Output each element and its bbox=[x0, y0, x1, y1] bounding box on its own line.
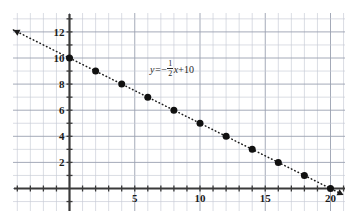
equation-constant: 10 bbox=[184, 65, 194, 75]
x-axis-tick-label: 15 bbox=[260, 193, 271, 204]
graph-figure: 24681012 5101520 y= − 1 2 x + 10 bbox=[0, 0, 351, 220]
x-axis-tick-label: 20 bbox=[325, 193, 336, 204]
equation-numerator: 1 bbox=[167, 59, 173, 68]
y-axis-tick-label: 4 bbox=[59, 131, 65, 142]
y-axis-tick-label: 10 bbox=[54, 53, 65, 64]
equation-denominator: 2 bbox=[167, 68, 173, 78]
equation-lhs: y= bbox=[150, 65, 161, 75]
x-axis-tick-label: 5 bbox=[132, 193, 138, 204]
y-axis-tick-label: 6 bbox=[59, 105, 65, 116]
equation-minus-sign: − bbox=[161, 65, 167, 75]
y-axis-tick-label: 12 bbox=[54, 26, 65, 37]
equation-annotation: y= − 1 2 x + 10 bbox=[150, 60, 194, 79]
y-axis-tick-label: 2 bbox=[59, 157, 65, 168]
y-axis-tick-label: 8 bbox=[59, 79, 65, 90]
equation-fraction: 1 2 bbox=[167, 59, 173, 78]
x-axis-tick-label: 10 bbox=[195, 193, 206, 204]
